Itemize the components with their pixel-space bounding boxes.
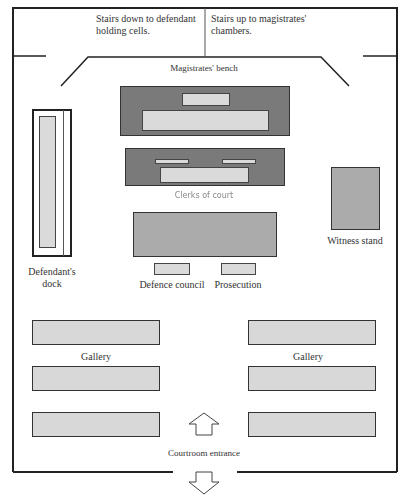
dock-label-line1: Defendant's (28, 266, 75, 278)
defendants-dock-bench (39, 116, 56, 248)
gallery-right-row-2 (248, 366, 376, 391)
prosecution-label: Prosecution (214, 279, 261, 291)
stairs-down-line1: Stairs down to defendant (96, 13, 196, 25)
arrow-down-outline-icon (188, 471, 220, 495)
stairs-down-line2: holding cells. (96, 25, 196, 37)
defence-council-seat (154, 263, 190, 275)
magistrates-bench-label: Magistrates' bench (170, 62, 237, 74)
gallery-right-label: Gallery (293, 351, 323, 363)
gallery-left-row-2 (32, 366, 160, 391)
gallery-left-row-1 (32, 320, 160, 345)
defendants-dock-label: Defendant's dock (28, 266, 75, 290)
witness-stand (331, 167, 380, 230)
gallery-right-row-3 (248, 412, 376, 437)
stairs-up-line1: Stairs up to magistrates' (211, 13, 306, 25)
gallery-left-label: Gallery (81, 351, 111, 363)
magistrates-bench-seat-top (182, 93, 230, 106)
dock-label-line2: dock (28, 278, 75, 290)
clerks-of-court-label: Clerks of court (175, 190, 233, 202)
counsel-table (133, 212, 277, 257)
defence-council-label: Defence council (139, 279, 204, 291)
arrow-up-outline-icon (188, 412, 220, 436)
magistrates-bench-desk (142, 110, 269, 131)
stairs-down-label: Stairs down to defendant holding cells. (96, 13, 196, 37)
stairs-up-line2: chambers. (211, 25, 306, 37)
courtroom-entrance-label: Courtroom entrance (168, 447, 240, 459)
clerk-seat-left (155, 159, 189, 164)
stairs-up-label: Stairs up to magistrates' chambers. (211, 13, 306, 37)
clerk-seat-right (222, 159, 256, 164)
gallery-right-row-1 (248, 320, 376, 345)
defendants-dock-rail (63, 110, 64, 256)
witness-stand-label: Witness stand (327, 235, 382, 247)
gallery-left-row-3 (32, 412, 160, 437)
clerk-desk-inner (160, 167, 249, 183)
prosecution-seat (221, 263, 256, 275)
